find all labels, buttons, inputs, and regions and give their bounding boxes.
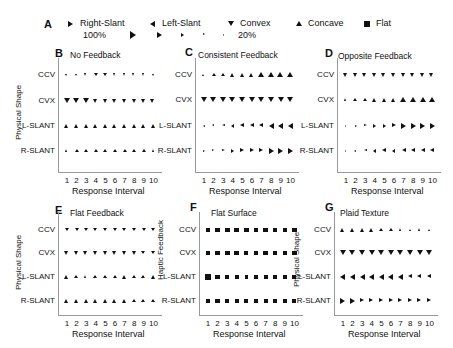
x-tick-label: 10 — [289, 319, 299, 328]
x-tick-label: 4 — [91, 319, 101, 328]
legend-label-concave: Concave — [308, 18, 344, 28]
data-marker — [64, 98, 70, 103]
x-tick-label: 8 — [129, 319, 139, 328]
y-axis — [195, 58, 196, 172]
y-axis-label: Physical Shape — [14, 85, 23, 140]
data-marker — [93, 124, 97, 128]
data-marker — [103, 251, 107, 255]
data-marker — [263, 228, 268, 233]
x-tick-label: 8 — [408, 176, 418, 185]
data-marker — [103, 124, 107, 128]
x-tick-label: 2 — [72, 176, 82, 185]
data-marker — [141, 299, 145, 302]
data-marker — [254, 251, 258, 255]
data-marker — [273, 299, 277, 303]
data-marker — [132, 228, 136, 231]
data-marker — [398, 298, 402, 302]
data-marker — [142, 228, 146, 231]
data-marker — [355, 125, 357, 127]
data-marker — [401, 73, 405, 77]
x-tick-label: 1 — [341, 176, 351, 185]
x-tick-label: 9 — [280, 319, 290, 328]
data-marker — [94, 73, 98, 76]
data-marker — [244, 299, 248, 303]
data-marker — [206, 251, 210, 255]
x-tick-label: 10 — [285, 176, 295, 185]
data-marker — [112, 99, 116, 103]
data-marker — [430, 123, 435, 129]
data-marker — [259, 148, 263, 152]
x-tick-label: 1 — [338, 319, 348, 328]
data-marker — [75, 149, 79, 152]
data-marker — [132, 149, 136, 152]
data-marker — [206, 299, 210, 303]
legend-down-icon — [228, 21, 234, 26]
x-tick-label: 1 — [62, 319, 72, 328]
size-step-icon — [203, 33, 205, 35]
x-tick-label: 2 — [213, 319, 223, 328]
data-marker — [113, 275, 117, 278]
data-marker — [93, 99, 97, 103]
data-marker — [430, 148, 434, 152]
x-tick-label: 9 — [418, 176, 428, 185]
data-marker — [141, 251, 145, 254]
data-marker — [410, 73, 414, 77]
row-label-l-slant: L-SLANT — [290, 121, 334, 130]
legend-label-right-slant: Right-Slant — [80, 18, 125, 28]
x-tick-label: 8 — [270, 319, 280, 328]
legend-square-icon — [364, 21, 369, 26]
row-label-ccv: CCV — [11, 70, 55, 79]
row-label-r-slant: R-SLANT — [290, 146, 334, 155]
data-marker — [369, 298, 373, 302]
data-marker — [212, 149, 214, 151]
data-marker — [142, 149, 146, 152]
data-marker — [84, 149, 88, 152]
data-marker — [103, 149, 107, 152]
x-axis — [195, 172, 299, 173]
data-marker — [345, 125, 346, 127]
data-marker — [397, 250, 403, 255]
data-marker — [249, 73, 253, 77]
x-tick-label: 7 — [257, 176, 267, 185]
legend-label-left-slant: Left-Slant — [162, 18, 201, 28]
data-marker — [215, 275, 220, 280]
x-axis-label: Response Interval — [348, 329, 421, 339]
data-marker — [379, 298, 383, 302]
data-marker — [201, 97, 207, 102]
x-tick-label: 7 — [120, 176, 130, 185]
data-marker — [84, 275, 86, 278]
data-marker — [93, 275, 97, 278]
data-marker — [122, 99, 126, 103]
data-marker — [122, 251, 126, 255]
data-marker — [240, 123, 244, 127]
data-marker — [429, 73, 433, 77]
x-tick-label: 2 — [351, 176, 361, 185]
data-marker — [360, 228, 364, 232]
data-marker — [381, 73, 385, 77]
legend-label-flat: Flat — [376, 18, 391, 28]
data-marker — [103, 99, 107, 103]
data-marker — [75, 228, 79, 231]
data-marker — [74, 124, 78, 128]
size-step-icon — [130, 31, 136, 39]
size-step-icon — [223, 34, 224, 36]
x-tick-label: 3 — [81, 176, 91, 185]
data-marker — [250, 148, 254, 152]
data-marker — [103, 275, 107, 278]
data-marker — [132, 73, 134, 76]
data-marker — [420, 73, 424, 77]
data-marker — [389, 298, 393, 302]
x-tick-label: 8 — [266, 176, 276, 185]
data-marker — [421, 148, 425, 152]
data-marker — [391, 98, 395, 102]
data-marker — [372, 98, 376, 102]
data-marker — [400, 97, 406, 102]
x-tick-label: 10 — [148, 319, 158, 328]
data-marker — [93, 251, 97, 255]
data-marker — [401, 123, 406, 129]
data-marker — [83, 98, 89, 103]
data-marker — [364, 149, 367, 151]
legend-right-icon — [68, 21, 73, 27]
x-tick-label: 9 — [139, 176, 149, 185]
row-label-ccv: CCV — [148, 70, 192, 79]
